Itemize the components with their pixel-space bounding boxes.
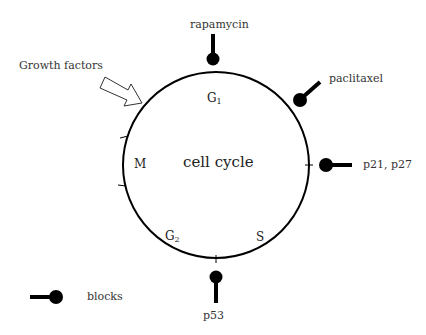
block-symbol-icon xyxy=(293,82,320,107)
phase-label-g2: G2 xyxy=(165,230,180,244)
phase-name: G xyxy=(207,91,217,105)
block-symbol-icon xyxy=(210,271,223,304)
phase-subscript: 1 xyxy=(217,97,222,106)
hollow-arrow-icon xyxy=(100,77,142,106)
phase-label-s: S xyxy=(256,231,264,243)
growth-factors-label: Growth factors xyxy=(19,60,103,71)
phase-name: M xyxy=(134,157,146,171)
inhibitor-label-paclitaxel: paclitaxel xyxy=(329,73,383,84)
inhibitor-label-p53: p53 xyxy=(203,310,224,321)
inhibitor-label-p21-p27: p21, p27 xyxy=(363,159,412,170)
phase-name: G xyxy=(165,229,175,243)
legend-label: blocks xyxy=(87,291,123,302)
diagram-title: cell cycle xyxy=(183,155,254,170)
phase-label-m: M xyxy=(134,158,146,170)
legend-block-icon xyxy=(30,290,63,304)
phase-name: S xyxy=(256,230,264,244)
block-symbol-icon xyxy=(207,34,220,66)
phase-subscript: 2 xyxy=(175,235,180,244)
inhibitor-label-rapamycin: rapamycin xyxy=(190,19,249,30)
block-symbol-icon xyxy=(319,158,352,172)
phase-label-g1: G1 xyxy=(207,92,222,106)
